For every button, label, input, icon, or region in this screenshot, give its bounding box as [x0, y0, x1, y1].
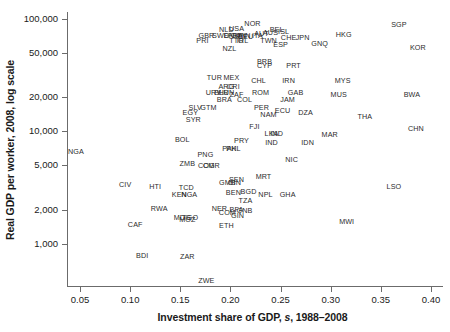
data-point-label: PNG [197, 151, 213, 159]
data-point-label: FJI [249, 123, 259, 131]
data-point-label: TZA [239, 197, 253, 205]
data-point-label: ECU [275, 107, 290, 115]
data-point-label: CIV [119, 181, 131, 189]
data-point-label: NAM [260, 111, 276, 119]
plot-area: SGPNORUSANLDBELISLAUTAUSITAGBRSWEDNKFRAC… [0, 0, 450, 332]
data-point-label: DZA [298, 109, 313, 117]
data-point-label: LSO [387, 183, 402, 191]
data-point-label: IRN [282, 77, 295, 85]
data-point-label: GNQ [311, 40, 328, 48]
data-point-label: JAM [280, 96, 295, 104]
data-point-label: BRA [217, 96, 232, 104]
data-point-label: PAK [222, 145, 236, 153]
data-point-label: COL [237, 96, 252, 104]
data-point-label: TUR [207, 74, 222, 82]
data-point-label: IRL [237, 37, 249, 45]
data-point-label: MOZ [179, 216, 195, 224]
data-point-label: MEX [223, 74, 239, 82]
data-point-label: MAR [322, 131, 338, 139]
data-point-label: CYP [257, 62, 272, 70]
data-point-label: ETH [219, 222, 234, 230]
data-point-label: NZL [222, 45, 236, 53]
data-point-label: IND [265, 139, 278, 147]
data-point-label: HTI [149, 183, 161, 191]
data-point-label: GTM [200, 104, 216, 112]
data-point-label: CHN [408, 125, 424, 133]
data-point-label: BGD [241, 188, 257, 196]
data-point-label: CMR [203, 162, 220, 170]
data-point-label: MUS [331, 91, 347, 99]
data-point-label: NIC [285, 156, 298, 164]
data-point-label: IND [270, 130, 283, 138]
data-point-label: IDN [301, 139, 314, 147]
data-point-label: BWA [404, 91, 420, 99]
data-point-label: NPL [258, 191, 272, 199]
data-point-label: ESP [273, 41, 288, 49]
data-point-label: CHL [251, 77, 266, 85]
data-point-label: SGP [391, 21, 406, 29]
data-point-label: MRT [256, 173, 272, 181]
data-point-label: JPN [296, 34, 310, 42]
data-point-label: CAF [128, 221, 143, 229]
data-point-label: PRT [286, 62, 301, 70]
data-point-label: SYR [186, 116, 201, 124]
data-point-label: RWA [151, 205, 168, 213]
data-point-label: PRI [196, 37, 208, 45]
data-point-label: HKG [336, 31, 352, 39]
data-point-label: NGA [181, 191, 197, 199]
scatter-plot-figure: Real GDP per worker, 2008, log scale Inv… [0, 0, 450, 332]
data-point-label: BOL [175, 136, 190, 144]
data-point-label: ZWE [198, 277, 214, 285]
data-point-label: BDI [136, 252, 148, 260]
data-point-label: THA [357, 113, 372, 121]
data-point-label: NGA [68, 148, 84, 156]
data-point-label: ZAR [180, 253, 195, 261]
data-point-label: NOR [244, 20, 260, 28]
data-point-label: MYS [335, 77, 351, 85]
data-point-label: MWI [339, 218, 354, 226]
data-point-label: GIN [231, 212, 244, 220]
data-point-label: GHA [280, 191, 296, 199]
data-point-label: ZMB [180, 160, 195, 168]
data-point-label: ROM [252, 89, 269, 97]
data-point-label: GMB [219, 179, 236, 187]
data-point-label: KOR [410, 44, 426, 52]
